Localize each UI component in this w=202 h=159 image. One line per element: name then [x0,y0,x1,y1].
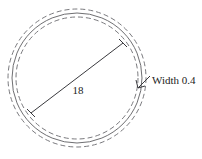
circle-width-diagram: 18 Width 0.4 [0,0,202,159]
diameter-tick-start-icon [27,109,35,117]
diameter-measure-line-icon [31,43,123,113]
figure-container: 18 Width 0.4 [0,0,202,159]
diameter-label: 18 [73,84,85,96]
width-label: Width 0.4 [152,74,196,86]
width-bracket-icon [136,80,145,88]
diameter-tick-end-icon [119,39,127,47]
